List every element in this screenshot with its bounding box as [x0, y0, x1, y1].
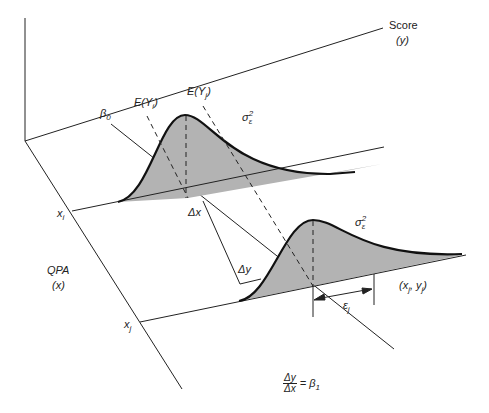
e-yi-label: E(Yi): [134, 97, 158, 111]
e-yj-label: E(Yj): [187, 86, 211, 100]
sigma-label-1: σ2ε: [242, 110, 253, 126]
slope-formula: Δy Δx = β1: [283, 373, 320, 394]
delta-x-label: Δx: [188, 207, 201, 218]
qpa-symbol: (x): [52, 280, 65, 291]
qpa-label: QPA: [47, 265, 69, 276]
score-label: Score: [389, 20, 418, 31]
arrowhead-right: [362, 288, 372, 294]
slope-triangle: [203, 201, 261, 284]
xj-label: xj: [124, 319, 131, 333]
diagram-canvas: [0, 0, 489, 413]
sigma-label-2: σ2ε: [355, 215, 366, 231]
xi-label: xi: [57, 208, 64, 222]
beta0-label: β0: [100, 108, 111, 122]
epsilon-label: εj: [343, 300, 350, 314]
arrowhead-left: [314, 294, 325, 300]
score-symbol: (y): [396, 35, 409, 46]
delta-y-label: Δy: [238, 264, 251, 275]
point-label: (xj, yj): [399, 280, 427, 294]
distribution-xj-fill: [239, 220, 462, 301]
